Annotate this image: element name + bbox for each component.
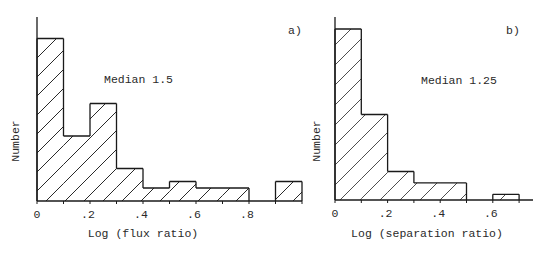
- median-annotation-b: Median 1.25: [421, 74, 497, 87]
- histogram-bar: [388, 172, 414, 201]
- histogram-bar: [414, 183, 440, 200]
- panel-label-a: a): [288, 24, 302, 37]
- y-axis-label-b: Number: [310, 120, 323, 161]
- histogram-bar: [117, 169, 144, 202]
- y-axis-label-a: Number: [9, 120, 22, 161]
- histogram-bar: [196, 188, 223, 201]
- histogram-bar: [90, 104, 117, 202]
- x-tick-label: .6: [484, 207, 498, 220]
- figure: 0.2.4.6.8 a) Median 1.5 Log (flux ratio)…: [0, 0, 543, 258]
- x-ticks-a: 0.2.4.6.8: [34, 201, 302, 221]
- x-tick-label: .4: [431, 207, 445, 220]
- histogram-panel-a: 0.2.4.6.8 a) Median 1.5 Log (flux ratio)…: [9, 17, 302, 240]
- histogram-bar: [143, 188, 170, 201]
- x-axis-label-a: Log (flux ratio): [88, 227, 198, 240]
- histogram-bar: [335, 29, 361, 200]
- histogram-bar: [223, 188, 250, 201]
- x-tick-label: 0: [332, 207, 339, 220]
- bars-a: [37, 39, 302, 202]
- histogram-bar: [276, 182, 303, 202]
- x-tick-label: .2: [379, 207, 393, 220]
- histogram-bar: [361, 115, 387, 201]
- x-tick-label: .2: [81, 208, 95, 221]
- x-tick-label: .4: [134, 208, 148, 221]
- bars-b: [335, 29, 519, 200]
- panel-label-b: b): [506, 24, 520, 37]
- histogram-bar: [170, 182, 197, 202]
- x-tick-label: .6: [187, 208, 201, 221]
- histogram-bar: [64, 136, 91, 201]
- x-axis-label-b: Log (separation ratio): [351, 227, 503, 240]
- histogram-panel-b: 0.2.4.6 b) Median 1.25 Log (separation r…: [310, 17, 533, 240]
- histogram-bar: [440, 183, 466, 200]
- x-ticks-b: 0.2.4.6: [332, 200, 520, 220]
- x-tick-label: .8: [240, 208, 254, 221]
- histogram-bar: [37, 39, 64, 202]
- histogram-bar: [493, 194, 519, 200]
- x-tick-label: 0: [34, 208, 41, 221]
- median-annotation-a: Median 1.5: [104, 73, 173, 86]
